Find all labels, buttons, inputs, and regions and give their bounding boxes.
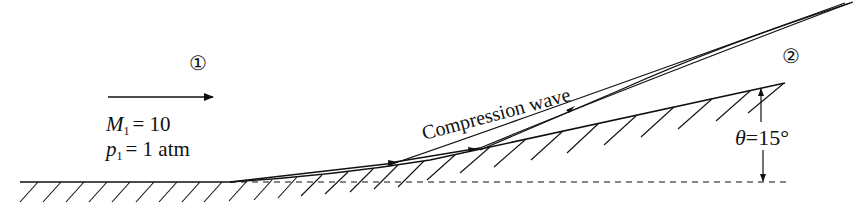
compression-wave-label: Compression wave: [419, 83, 573, 145]
wave-arrow-marker: [388, 160, 398, 165]
wall-hatching-flat: [20, 181, 247, 202]
diagram-canvas: ① ② M1= 10 p1= 1 atm Compression wave θ=…: [0, 0, 853, 218]
mach-subscript: 1: [124, 124, 130, 138]
pressure-value: = 1 atm: [126, 137, 190, 161]
mach-number-label: M1= 10: [105, 112, 171, 138]
angle-value: =15°: [746, 125, 789, 150]
mach-value: = 10: [133, 112, 171, 136]
region-2-label: ②: [782, 45, 800, 67]
pressure-subscript: 1: [117, 149, 123, 163]
region-1-label: ①: [189, 52, 207, 74]
theta-symbol: θ: [735, 125, 746, 150]
mach-symbol: M: [105, 112, 125, 136]
angle-label: θ=15°: [735, 125, 789, 150]
pressure-label: p1= 1 atm: [104, 137, 190, 163]
pressure-symbol: p: [104, 137, 117, 161]
